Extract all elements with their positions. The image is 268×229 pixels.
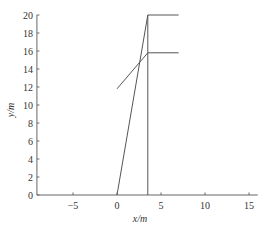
x-axis-label: x/m	[132, 213, 147, 224]
y-tick-label: 10	[23, 100, 33, 111]
x-tick-label: 10	[200, 200, 210, 211]
y-axis-label: y/m	[5, 103, 16, 118]
chart: 02468101214161820−5051015 x/m y/m	[0, 0, 268, 229]
y-tick-label: 16	[23, 46, 33, 57]
series-curve	[117, 53, 148, 89]
series-rising-line	[117, 15, 148, 195]
x-tick-label: 5	[159, 200, 164, 211]
y-tick-label: 8	[28, 118, 33, 129]
y-tick-label: 4	[28, 154, 33, 165]
y-tick-label: 6	[28, 136, 33, 147]
y-tick-label: 20	[23, 10, 33, 21]
y-tick-label: 2	[28, 172, 33, 183]
axes: 02468101214161820−5051015	[23, 10, 254, 212]
y-tick-label: 0	[28, 190, 33, 201]
x-tick-label: −5	[68, 200, 79, 211]
y-tick-label: 14	[23, 64, 33, 75]
y-tick-label: 18	[23, 28, 33, 39]
plot-lines	[37, 15, 258, 195]
y-tick-label: 12	[23, 82, 33, 93]
x-tick-label: 15	[244, 200, 254, 211]
x-tick-label: 0	[115, 200, 120, 211]
